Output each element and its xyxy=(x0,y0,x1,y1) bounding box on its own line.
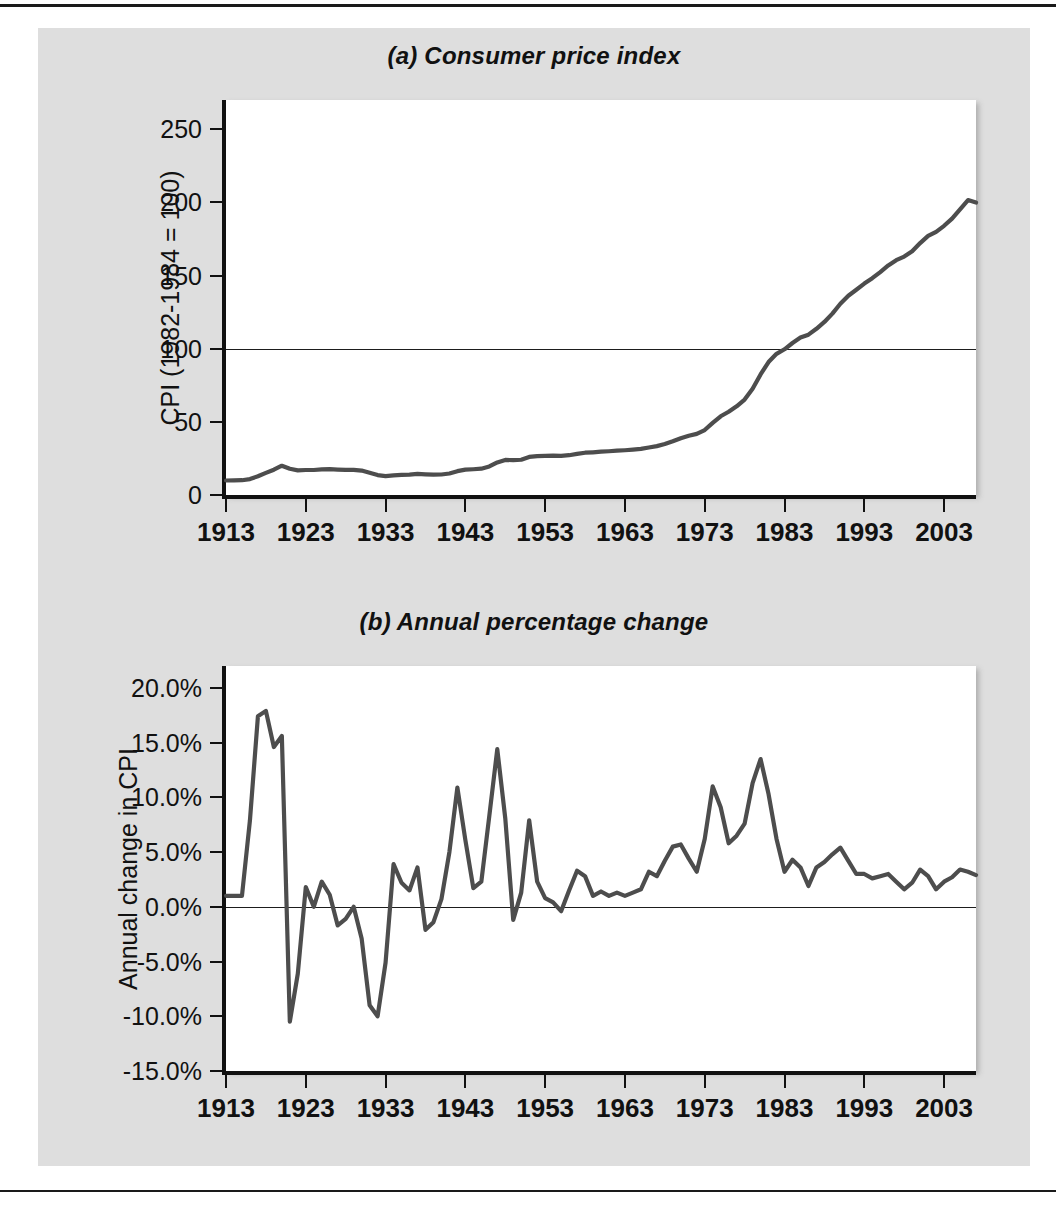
change-series xyxy=(38,608,1030,1153)
cpi-series xyxy=(38,42,1030,572)
chart-consumer-price-index: (a) Consumer price index 050100150200250… xyxy=(38,42,1030,572)
change-series-path xyxy=(226,711,976,1022)
page-bottom-rule xyxy=(0,1190,1056,1192)
figure-panel: (a) Consumer price index 050100150200250… xyxy=(38,28,1030,1166)
page-top-rule xyxy=(0,4,1056,7)
chart-annual-percentage-change: (b) Annual percentage change -15.0%-10.0… xyxy=(38,608,1030,1153)
cpi-series-path xyxy=(226,200,976,480)
